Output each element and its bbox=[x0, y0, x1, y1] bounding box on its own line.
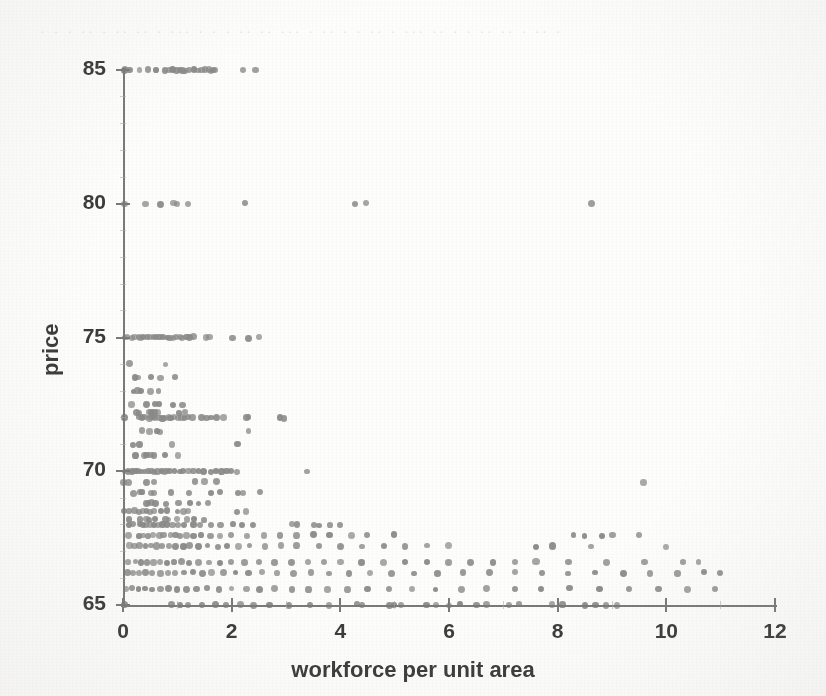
scatter-point bbox=[234, 509, 240, 515]
scatter-point bbox=[363, 200, 369, 206]
scatter-point bbox=[205, 543, 211, 549]
y-axis-minor-tick bbox=[120, 284, 126, 285]
scatter-point bbox=[386, 586, 392, 592]
plot-area: 6570758085024681012 bbox=[0, 0, 826, 696]
scatter-point bbox=[138, 388, 144, 394]
scatter-point bbox=[207, 533, 213, 539]
scatter-point bbox=[326, 571, 332, 577]
scatter-point bbox=[424, 543, 430, 549]
y-axis-minor-tick bbox=[120, 524, 126, 525]
y-axis-tick-label: 70 bbox=[0, 457, 106, 481]
scatter-point bbox=[156, 388, 162, 394]
scatter-point bbox=[206, 334, 213, 341]
scatter-point bbox=[217, 533, 223, 539]
scatter-point bbox=[533, 544, 540, 551]
x-axis-tick bbox=[122, 598, 124, 612]
scatter-point bbox=[189, 414, 196, 421]
scatter-point bbox=[198, 532, 204, 538]
y-axis-minor-tick bbox=[120, 578, 126, 579]
scatter-point bbox=[240, 490, 246, 496]
scatter-point bbox=[271, 559, 277, 565]
scatter-point bbox=[680, 559, 686, 565]
y-axis-minor-tick bbox=[120, 257, 126, 258]
scatter-point bbox=[277, 532, 284, 539]
scatter-point bbox=[212, 67, 219, 74]
x-axis-tick-label: 2 bbox=[192, 619, 272, 643]
scatter-point bbox=[217, 560, 223, 566]
figure-page: · · · ·· · ·· ·· · ··· · · · ·· ·· ··· ·… bbox=[0, 0, 826, 696]
scatter-point bbox=[433, 587, 439, 593]
x-axis-title: workforce per unit area bbox=[0, 657, 826, 683]
scatter-point bbox=[147, 388, 154, 395]
scatter-point bbox=[281, 415, 287, 421]
scatter-point bbox=[701, 569, 707, 575]
scatter-point bbox=[539, 570, 545, 576]
scatter-point bbox=[647, 570, 653, 576]
y-axis-minor-tick bbox=[120, 177, 126, 178]
scatter-point bbox=[174, 201, 180, 207]
scatter-point bbox=[230, 521, 236, 527]
y-axis-minor-tick bbox=[120, 150, 126, 151]
scatter-point bbox=[170, 402, 176, 408]
scatter-point bbox=[234, 441, 240, 447]
scatter-point bbox=[165, 585, 172, 592]
scatter-point bbox=[165, 570, 171, 576]
scatter-point bbox=[467, 559, 474, 566]
scatter-point bbox=[640, 479, 647, 486]
scatter-point bbox=[256, 586, 263, 593]
scatter-point bbox=[246, 428, 252, 434]
scatter-point bbox=[274, 570, 280, 576]
scatter-point bbox=[717, 570, 724, 577]
scatter-point bbox=[195, 543, 202, 550]
scatter-point bbox=[145, 66, 152, 73]
x-axis-tick bbox=[231, 598, 233, 612]
scatter-point bbox=[424, 559, 430, 565]
scatter-point bbox=[367, 570, 373, 576]
scatter-point bbox=[164, 507, 171, 514]
scatter-point bbox=[240, 67, 246, 73]
y-axis-minor-tick bbox=[120, 391, 126, 392]
scatter-point bbox=[148, 374, 154, 380]
scatter-point bbox=[458, 586, 465, 593]
scatter-point bbox=[352, 201, 358, 207]
scatter-point bbox=[245, 570, 252, 577]
scatter-point bbox=[190, 333, 197, 340]
scatter-point bbox=[304, 469, 310, 475]
scatter-point bbox=[288, 559, 295, 566]
scatter-point bbox=[168, 489, 174, 495]
scatter-point bbox=[137, 67, 143, 73]
scatter-point bbox=[434, 570, 441, 577]
scatter-point bbox=[620, 570, 627, 577]
scatter-point bbox=[139, 489, 145, 495]
y-axis-minor-tick bbox=[120, 310, 126, 311]
scatter-point bbox=[216, 586, 222, 592]
scatter-point bbox=[217, 522, 223, 528]
scatter-point bbox=[549, 542, 556, 549]
scatter-point bbox=[409, 586, 415, 592]
x-axis-minor-tick bbox=[177, 601, 178, 609]
scatter-point bbox=[233, 570, 239, 576]
scatter-point bbox=[229, 335, 235, 341]
scatter-point bbox=[152, 500, 159, 507]
scatter-point bbox=[228, 532, 234, 538]
y-axis-minor-tick bbox=[120, 96, 126, 97]
scatter-point bbox=[532, 558, 539, 565]
scatter-point bbox=[324, 586, 331, 593]
scatter-point bbox=[241, 559, 248, 566]
scatter-point bbox=[293, 542, 300, 549]
scatter-point bbox=[402, 543, 408, 549]
scatter-point bbox=[229, 586, 235, 592]
scatter-point bbox=[178, 558, 185, 565]
scatter-point bbox=[163, 501, 169, 507]
scatter-point bbox=[187, 500, 193, 506]
scatter-point bbox=[175, 452, 182, 459]
x-axis-tick bbox=[774, 598, 776, 612]
scatter-point bbox=[337, 522, 343, 528]
scatter-point bbox=[655, 586, 662, 593]
scatter-point bbox=[445, 542, 452, 549]
scatter-point bbox=[190, 533, 197, 540]
scatter-point bbox=[380, 559, 387, 566]
scatter-point bbox=[151, 490, 158, 497]
scatter-point bbox=[175, 509, 181, 515]
scatter-point bbox=[391, 531, 398, 538]
